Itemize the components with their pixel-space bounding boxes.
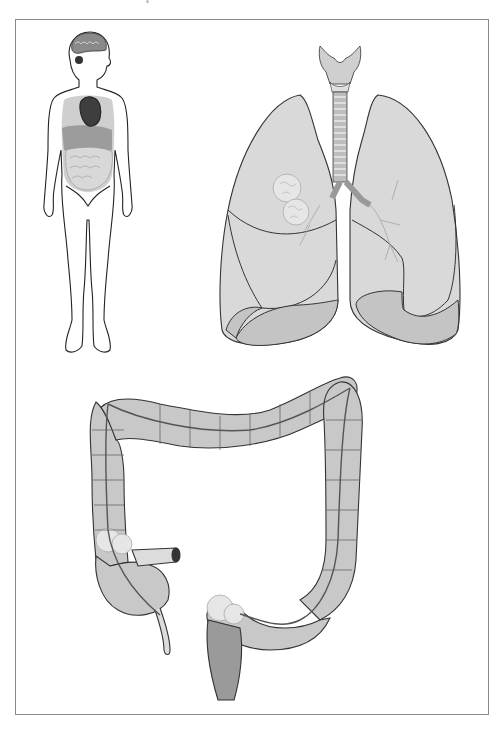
larynx-shape: [319, 46, 361, 84]
anatomy-illustration: [0, 0, 504, 735]
human-body-figure: [44, 32, 132, 352]
appendix: [155, 608, 170, 655]
transverse-colon: [100, 377, 357, 448]
rectum: [207, 620, 242, 700]
lungs-illustration: [220, 46, 460, 345]
colon-illustration: [90, 377, 362, 700]
cecum-tumor: [96, 528, 132, 554]
